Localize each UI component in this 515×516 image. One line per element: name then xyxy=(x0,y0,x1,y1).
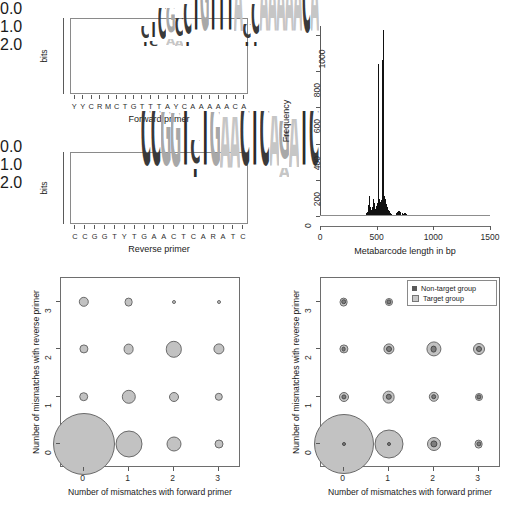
logo-tick-row xyxy=(70,225,248,229)
logo-letter-cell: A xyxy=(166,39,174,47)
logo-letter-cell: T xyxy=(190,169,200,179)
panel-nontarget-bubble-plot: 0123Number of mismatches with forward pr… xyxy=(258,265,515,516)
bubble-legend: Non-target groupTarget group xyxy=(407,280,497,306)
logo-tick xyxy=(70,95,78,99)
mismatch-x-tick xyxy=(433,467,434,471)
bits-axis xyxy=(63,152,70,224)
length-tick-label: 1500 xyxy=(481,232,500,242)
mismatch-y-tick-label: 2 xyxy=(303,356,313,361)
logo-tick-mark xyxy=(74,95,75,99)
panel-reverse-primer-logo: 0.01.02.0bitsCCGGTCTTGAACTCAGAATCCCGGTYT… xyxy=(0,138,270,268)
bubble-point xyxy=(123,344,134,355)
bits-axis xyxy=(63,18,70,94)
logo-letter-cell: T xyxy=(200,111,210,179)
mismatch-x-tick-label: 0 xyxy=(340,473,345,483)
logo-column: CT xyxy=(141,0,149,47)
histogram-bars xyxy=(320,26,490,216)
mismatch-y-tick-label: 3 xyxy=(43,308,53,313)
logo-letter-cell: G xyxy=(200,0,208,47)
length-tick-label: 500 xyxy=(370,232,384,242)
length-axis-title: Metabarcode length in bp xyxy=(354,246,456,256)
logo-letter-cell: C xyxy=(183,4,191,42)
logo-column: CT xyxy=(243,0,251,47)
logo-tick xyxy=(100,225,110,229)
logo-tick xyxy=(119,225,129,229)
logo-letter-C: C xyxy=(260,111,270,179)
bubble-point xyxy=(78,297,88,307)
logo-tick-mark xyxy=(243,95,244,99)
logo-tick xyxy=(138,95,146,99)
logo-letter-cell: T xyxy=(250,111,260,179)
consensus-base: T xyxy=(129,232,139,241)
logo-letter-A: A xyxy=(175,41,183,47)
logo-tick-mark xyxy=(209,95,210,99)
logo-column: CT xyxy=(190,107,200,179)
consensus-base: T xyxy=(110,232,120,241)
logo-letter-cell: G xyxy=(166,8,174,39)
logo-letter-G: G xyxy=(171,113,181,179)
logo-letter-C: C xyxy=(141,111,151,179)
logo-tick-mark xyxy=(91,95,92,99)
logo-tick-mark xyxy=(153,225,154,229)
mismatch-y-tick-label: 3 xyxy=(303,308,313,313)
mismatch-y-tick xyxy=(56,396,60,397)
legend-label: Non-target group xyxy=(421,284,476,293)
bubble-plot-frame xyxy=(60,277,240,467)
histogram-baseline-run xyxy=(320,215,490,216)
mismatch-y-tick xyxy=(316,396,320,397)
logo-tick xyxy=(70,225,80,229)
mismatch-y-tick xyxy=(316,348,320,349)
logo-tick xyxy=(146,95,154,99)
logo-letter-T: T xyxy=(243,42,251,47)
logo-letter-T: T xyxy=(150,22,158,41)
logo-tick xyxy=(189,225,199,229)
logo-letter-cell: A xyxy=(175,41,183,47)
consensus-base: M xyxy=(104,102,112,111)
logo-letter-G: G xyxy=(200,0,208,47)
length-tick xyxy=(320,226,321,230)
legend-label: Target group xyxy=(423,294,464,303)
mismatch-x-tick xyxy=(388,467,389,471)
logo-tick-mark xyxy=(173,225,174,229)
logo-letter-cell: C xyxy=(158,8,166,47)
logo-tick xyxy=(198,225,208,229)
logo-column: C xyxy=(240,107,250,179)
bubble-point xyxy=(342,442,346,446)
logo-tick-mark xyxy=(167,95,168,99)
mismatch-x-tick-label: 3 xyxy=(215,473,220,483)
logo-letter-cell: C xyxy=(141,111,151,179)
mismatch-y-tick-label: 0 xyxy=(303,451,313,456)
logo-letter-C: C xyxy=(240,111,250,179)
bubble-point xyxy=(79,345,88,354)
logo-column: GA xyxy=(166,0,174,47)
logo-tick-mark xyxy=(223,225,224,229)
mismatch-x-tick xyxy=(173,467,174,471)
logo-column: C xyxy=(158,0,166,47)
frequency-tick xyxy=(316,216,320,217)
logo-tick xyxy=(129,95,137,99)
logo-tick xyxy=(228,225,238,229)
bubble-point xyxy=(172,300,176,304)
legend-entry: Non-target group xyxy=(412,283,492,293)
logo-tick-mark xyxy=(141,95,142,99)
logo-tick-mark xyxy=(125,95,126,99)
logo-tick-mark xyxy=(84,225,85,229)
logo-letter-C: C xyxy=(190,140,200,169)
bubble-point xyxy=(165,341,181,357)
logo-tick-mark xyxy=(134,225,135,229)
mismatch-x-axis-title: Number of mismatches with forward primer xyxy=(328,487,492,497)
figure-root: 0.01.02.0bitsCTTCCGACACTTGTTTACTCTAAAAAC… xyxy=(0,0,515,516)
consensus-base: T xyxy=(228,232,238,241)
length-tick-label: 0 xyxy=(318,232,323,242)
frequency-axis-title: Frequency xyxy=(281,100,291,143)
consensus-base: C xyxy=(70,232,80,241)
logo-tick-row xyxy=(70,95,248,99)
logo-letter-cell: T xyxy=(183,42,191,47)
logo-tick-mark xyxy=(226,95,227,99)
logo-letter-T: T xyxy=(181,111,191,179)
logo-letter-T: T xyxy=(184,42,192,47)
length-tick xyxy=(490,226,491,230)
logo-tick xyxy=(95,95,103,99)
logo-tick xyxy=(179,225,189,229)
consensus-base: G xyxy=(129,102,137,111)
